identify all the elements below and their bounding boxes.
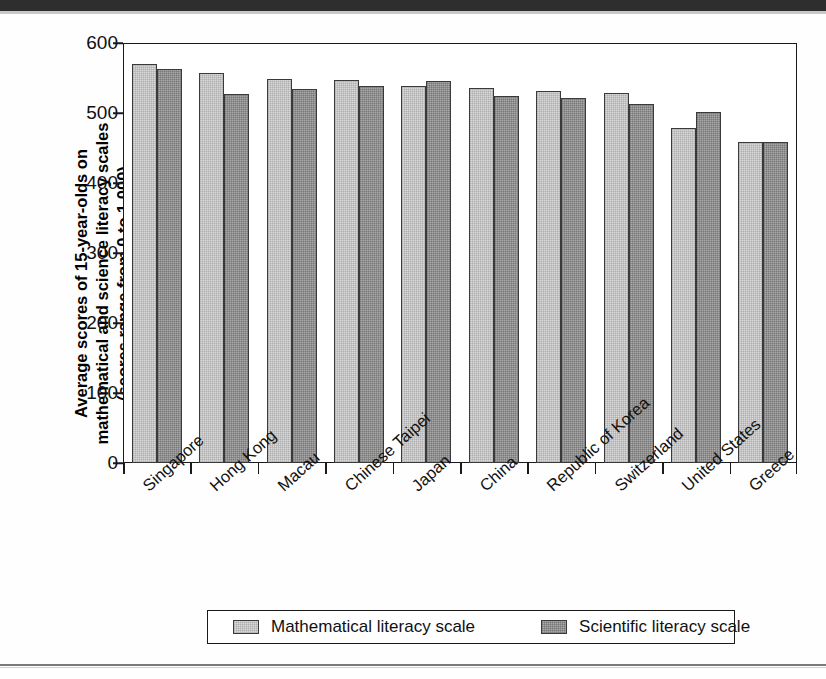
x-tick-label: Hong Kong — [206, 426, 280, 495]
x-tick-mark — [796, 463, 798, 474]
page-bottom-rule — [0, 664, 826, 666]
x-tick-mark — [460, 463, 462, 474]
x-tick-mark — [258, 463, 260, 474]
y-tick-mark — [113, 322, 123, 324]
chart-legend: Mathematical literacy scale Scientific l… — [207, 610, 735, 644]
x-tick-mark — [393, 463, 395, 474]
x-tick-label: Japan — [408, 451, 454, 495]
y-tick-mark — [113, 182, 123, 184]
y-tick-mark — [113, 112, 123, 114]
x-tick-mark — [123, 463, 125, 474]
x-tick-mark — [595, 463, 597, 474]
legend-label-scientific: Scientific literacy scale — [579, 617, 750, 637]
legend-entry-mathematical: Mathematical literacy scale — [233, 617, 475, 637]
x-tick-mark — [730, 463, 732, 474]
y-tick-mark — [113, 252, 123, 254]
legend-swatch-scientific-icon — [541, 620, 567, 634]
page-bottom-rule-shadow — [0, 667, 826, 668]
legend-entry-scientific: Scientific literacy scale — [541, 617, 750, 637]
x-tick-mark — [190, 463, 192, 474]
y-tick-mark — [113, 392, 123, 394]
x-tick-label: China — [476, 452, 521, 495]
x-tick-mark — [527, 463, 529, 474]
x-tick-label: Greece — [745, 445, 798, 495]
x-axis: SingaporeHong KongMacauChinese TaipeiJap… — [0, 0, 826, 679]
legend-label-mathematical: Mathematical literacy scale — [271, 617, 475, 637]
x-tick-mark — [325, 463, 327, 474]
y-tick-mark — [113, 462, 123, 464]
x-tick-label: Macau — [274, 448, 324, 495]
x-tick-label: Singapore — [139, 431, 208, 495]
legend-swatch-mathematical-icon — [233, 620, 259, 634]
x-tick-mark — [662, 463, 664, 474]
y-tick-mark — [113, 42, 123, 44]
chart-page: Average scores of 15-year-olds on mathem… — [0, 0, 826, 679]
